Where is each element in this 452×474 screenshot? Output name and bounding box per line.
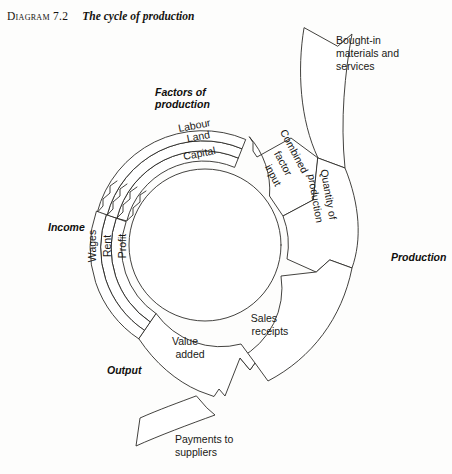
label-factors-of-production-line1: Factors of [155, 86, 207, 98]
band-label-profit: Profit [116, 234, 128, 259]
band-label-wages: Wages [86, 230, 98, 262]
label-output: Output [107, 364, 142, 376]
label-production: Production [391, 251, 446, 263]
sales-receipts-line1: Sales [251, 312, 277, 324]
bought-in-materials-label-line3: services [336, 60, 375, 72]
diagram-page: Diagram 7.2The cycle of production Bough… [0, 0, 452, 474]
band-label-rent: Rent [101, 235, 113, 257]
sales-receipts-line2: receipts [252, 325, 289, 337]
bought-in-materials-label-line2: materials and [336, 47, 399, 59]
payments-to-suppliers-label-line1: Payments to [175, 433, 234, 445]
cycle-hub-circle [129, 169, 281, 321]
payments-to-suppliers-label-line2: suppliers [175, 446, 217, 458]
label-factors-of-production-line2: production [154, 98, 210, 110]
label-income: Income [48, 221, 85, 233]
cycle-diagram-canvas: Bought-in materials and services Payment… [0, 0, 452, 474]
bought-in-materials-label-line1: Bought-in [336, 34, 381, 46]
value-added-line1: Value [172, 335, 198, 347]
value-added-line2: added [175, 348, 204, 360]
